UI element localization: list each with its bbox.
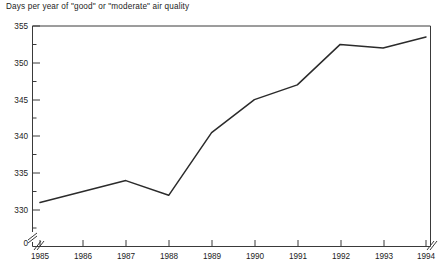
plot-area xyxy=(0,0,439,275)
data-series-line xyxy=(40,37,426,203)
axis-frame xyxy=(33,26,431,247)
air-quality-line-chart: Days per year of "good" or "moderate" ai… xyxy=(0,0,439,275)
x-axis-ticks xyxy=(40,240,426,247)
y-axis-break-icon xyxy=(28,233,37,243)
x-axis-break-icon xyxy=(34,241,44,250)
x-axis-break-icon-right xyxy=(427,241,437,250)
